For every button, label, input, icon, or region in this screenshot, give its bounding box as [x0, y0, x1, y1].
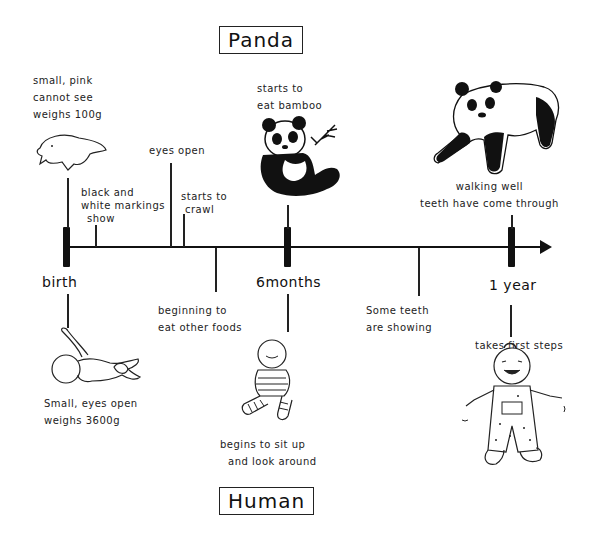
milestone-6-months: 6months [256, 274, 321, 290]
note-line: walking well [420, 178, 559, 195]
arrow-head-icon [540, 240, 552, 254]
note-line: teeth have come through [420, 195, 559, 212]
note-line: and look around [220, 453, 317, 470]
human-teeth-note: Some teeth are showing [366, 302, 432, 336]
note-line: weighs 100g [33, 106, 102, 123]
panda-eyes-note: eyes open [149, 142, 205, 159]
tick-sit [287, 294, 289, 332]
note-line: eat other foods [158, 319, 242, 336]
human-title: Human [219, 487, 314, 515]
panda-title: Panda [219, 26, 303, 54]
note-line: cannot see [33, 89, 102, 106]
note-line: small, pink [33, 72, 102, 89]
panda-birth-note: small, pink cannot see weighs 100g [33, 72, 102, 123]
note-line: starts to [181, 190, 227, 203]
tick-foods [215, 248, 217, 292]
panda-crawl-note: starts to crawl [181, 190, 227, 216]
toddler-illustration [460, 340, 570, 485]
note-line: weighs 3600g [44, 412, 138, 429]
note-line: white markings [81, 199, 165, 212]
tick-steps [510, 305, 512, 337]
human-foods-note: beginning to eat other foods [158, 302, 242, 336]
tick-bamboo [287, 205, 289, 229]
timeline-line [66, 246, 544, 248]
tick-eyes-open [170, 163, 172, 247]
panda-walking-note: walking well teeth have come through [420, 178, 559, 212]
note-line: eyes open [149, 142, 205, 159]
note-line: beginning to [158, 302, 242, 319]
note-line: starts to [257, 80, 322, 97]
note-line: Small, eyes open [44, 395, 138, 412]
milestone-birth: birth [42, 274, 77, 290]
note-line: begins to sit up [220, 436, 317, 453]
panda-bamboo-note: starts to eat bamboo [257, 80, 322, 114]
milestone-1-year: 1 year [489, 277, 537, 293]
six-months-marker [284, 227, 291, 267]
newborn-baby-illustration [48, 327, 143, 392]
tick-walking [511, 215, 513, 229]
tick-crawl [183, 214, 185, 247]
note-line: crawl [181, 203, 227, 216]
human-birth-note: Small, eyes open weighs 3600g [44, 395, 138, 429]
panda-markings-note: black and white markings show [81, 186, 165, 225]
walking-panda-illustration [432, 75, 572, 180]
note-line: black and [81, 186, 165, 199]
tick-markings [95, 225, 97, 247]
tick-teeth [418, 248, 420, 296]
sitting-panda-illustration [255, 115, 347, 205]
note-line: show [81, 212, 165, 225]
note-line: eat bamboo [257, 97, 322, 114]
note-line: Some teeth [366, 302, 432, 319]
human-sit-note: begins to sit up and look around [220, 436, 317, 470]
tick-human-birth [67, 294, 69, 328]
note-line: are showing [366, 319, 432, 336]
sitting-baby-illustration [238, 338, 308, 423]
birth-marker [63, 227, 70, 267]
newborn-panda-illustration [34, 130, 109, 175]
one-year-marker [508, 227, 515, 267]
tick-panda-birth [67, 178, 69, 228]
